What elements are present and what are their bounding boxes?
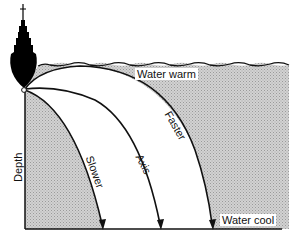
label-depth: Depth — [12, 153, 24, 182]
label-water-cool: Water cool — [220, 214, 276, 226]
sound-source-dot — [22, 88, 27, 93]
sound-ray-diagram — [0, 0, 298, 239]
label-water-warm: Water warm — [135, 68, 198, 80]
ship-icon — [10, 4, 37, 88]
